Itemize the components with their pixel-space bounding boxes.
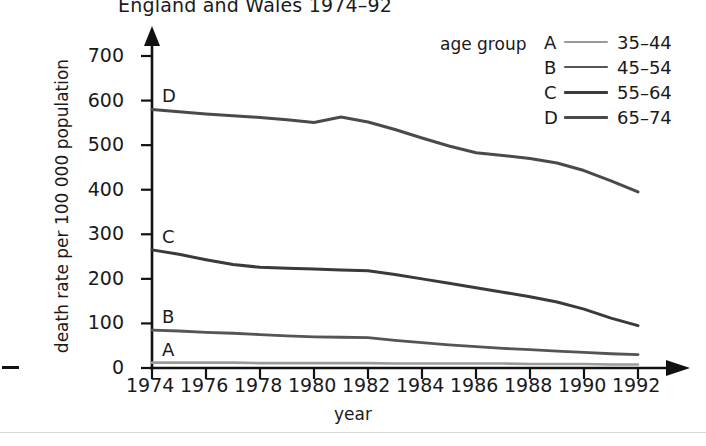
legend-row-A: A35–44 [544,30,672,54]
legend-swatch-B [564,66,608,69]
legend-key-D: D [544,107,562,128]
legend-row-C: C55–64 [544,80,672,104]
legend-key-C: C [544,82,562,103]
series-lines [152,109,638,364]
series-line-A [152,363,638,365]
legend-swatch-C [564,91,608,94]
legend-range-A: 35–44 [617,32,672,53]
legend-range-C: 55–64 [617,82,672,103]
series-label-D: D [162,87,176,105]
page-bottom-rule [0,432,706,433]
series-label-B: B [162,308,174,326]
series-label-C: C [162,228,175,246]
legend-swatch-A [564,41,608,44]
legend-range-D: 65–74 [617,107,672,128]
legend-key-B: B [544,57,562,78]
series-label-A: A [162,341,174,359]
series-line-C [152,250,638,326]
chart-figure: England and Wales 1974–92 death rate per… [0,0,706,446]
legend-row-B: B45–54 [544,55,672,79]
legend-row-D: D65–74 [544,105,672,129]
legend-range-B: 45–54 [617,57,672,78]
legend-swatch-D [564,116,608,119]
legend-key-A: A [544,32,562,53]
series-line-B [152,330,638,355]
legend-title: age group [440,34,526,54]
scan-edge-artifact [2,366,19,369]
